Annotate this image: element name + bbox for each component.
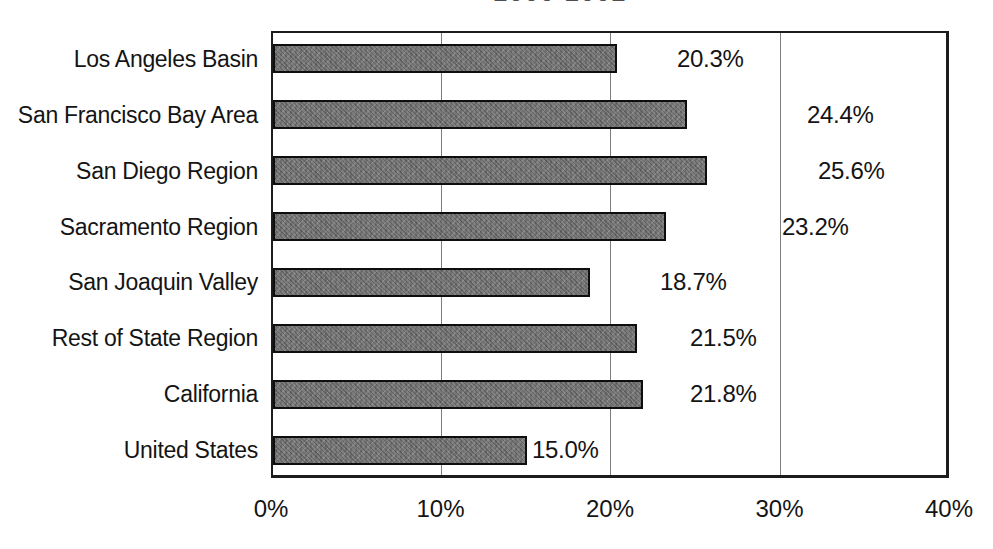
bar-san-francisco-bay-area (273, 100, 687, 129)
value-label: 24.4% (807, 100, 874, 130)
chart-title-text: 2000-2002 (430, 0, 690, 7)
gridline-20-percent (610, 33, 611, 475)
category-label: California (0, 379, 258, 409)
category-label: San Joaquin Valley (0, 267, 258, 297)
category-label: San Diego Region (0, 156, 258, 186)
x-axis-tick-label: 20% (586, 494, 634, 524)
x-axis-tick-label: 40% (925, 494, 973, 524)
value-label: 25.6% (818, 156, 885, 186)
bar-rest-of-state-region (273, 324, 637, 353)
bar-los-angeles-basin (273, 44, 617, 73)
value-label: 23.2% (782, 212, 849, 242)
value-label: 18.7% (660, 267, 727, 297)
category-label: Rest of State Region (0, 323, 258, 353)
category-label: Sacramento Region (0, 212, 258, 242)
x-axis-tick-label: 30% (755, 494, 803, 524)
plot-area (271, 31, 949, 478)
gridline-30-percent (780, 33, 781, 475)
gridline-10-percent (441, 33, 442, 475)
value-label: 20.3% (677, 44, 744, 74)
value-label: 21.8% (690, 379, 757, 409)
bar-san-joaquin-valley (273, 268, 590, 297)
value-label: 15.0% (532, 435, 599, 465)
bar-chart: 2000-2002 Los Angeles Basin20.3%San Fran… (0, 0, 993, 549)
value-label: 21.5% (690, 323, 757, 353)
bar-united-states (273, 436, 527, 465)
chart-title-fragment: 2000-2002 (430, 0, 690, 8)
x-axis-tick-label: 0% (254, 494, 289, 524)
category-label: Los Angeles Basin (0, 44, 258, 74)
x-axis-tick-label: 10% (416, 494, 464, 524)
bar-san-diego-region (273, 156, 707, 185)
category-label: United States (0, 435, 258, 465)
bar-sacramento-region (273, 212, 666, 241)
bar-california (273, 380, 643, 409)
category-label: San Francisco Bay Area (0, 100, 258, 130)
